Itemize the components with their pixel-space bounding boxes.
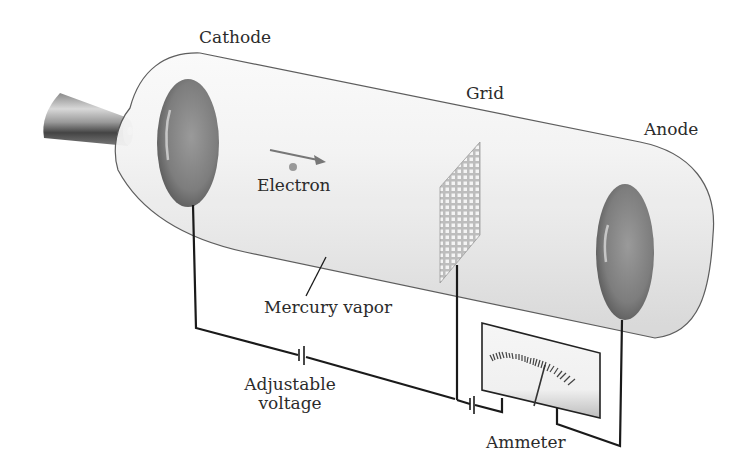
cathode-disk <box>157 79 219 207</box>
adjustable-voltage-line1: Adjustable <box>240 375 340 394</box>
ammeter-battery-icon <box>470 396 474 414</box>
adjustable-voltage-label: Adjustable voltage <box>240 375 340 412</box>
cathode-label: Cathode <box>199 28 271 47</box>
franck-hertz-diagram <box>0 0 743 476</box>
anode-label: Anode <box>644 120 698 139</box>
adjustable-voltage-battery-icon <box>299 346 304 365</box>
adjustable-voltage-line2: voltage <box>240 394 340 413</box>
grid-label: Grid <box>466 84 504 103</box>
ammeter-label: Ammeter <box>486 433 566 452</box>
ammeter-icon <box>482 323 600 418</box>
electron-label: Electron <box>257 176 331 195</box>
mercury-vapor-label: Mercury vapor <box>264 298 392 317</box>
anode-disk <box>596 184 654 320</box>
